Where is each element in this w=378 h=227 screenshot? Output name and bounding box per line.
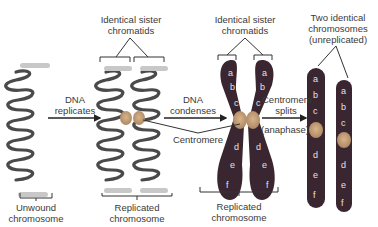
gene-locus-d: d	[256, 142, 261, 153]
gene-locus-c: c	[341, 118, 346, 129]
gene-locus-d: d	[341, 160, 346, 171]
label-dna-condenses: DNAcondenses	[164, 94, 222, 116]
gene-locus-a: a	[341, 86, 346, 97]
gene-locus-e: e	[341, 180, 346, 191]
replicated-dna-coil-left	[96, 71, 123, 180]
centromere-right	[133, 111, 145, 125]
gene-locus-e: e	[262, 160, 267, 171]
gene-locus-b: b	[341, 102, 346, 113]
label-replicated-chromosome-2: Replicatedchromosome	[206, 201, 272, 223]
label-replicated-chromosome-1: Replicatedchromosome	[104, 202, 170, 224]
unwound-top-cap	[20, 63, 50, 68]
label-sister-chromatids-2: Identical sisterchromatids	[212, 14, 278, 36]
gene-locus-f: f	[226, 180, 229, 191]
gene-locus-b: b	[260, 82, 265, 93]
label-sister-chromatids-1: Identical sisterchromatids	[98, 14, 164, 36]
gene-locus-c: c	[313, 106, 318, 117]
label-unwound-chromosome: Unwoundchromosome	[4, 202, 68, 224]
label-centromere: Centromere	[166, 134, 230, 145]
gene-locus-f: f	[266, 180, 269, 191]
gene-locus-a: a	[262, 68, 267, 79]
gene-locus-c: c	[256, 98, 261, 109]
centromere-left	[120, 111, 132, 125]
gene-locus-a: a	[313, 74, 318, 85]
gene-locus-b: b	[230, 82, 235, 93]
gene-locus-c: c	[234, 98, 239, 109]
gene-locus-b: b	[313, 90, 318, 101]
gene-locus-d: d	[234, 142, 239, 153]
gene-locus-e: e	[230, 160, 235, 171]
label-centromere-splits: Centromeresplits	[262, 94, 310, 116]
unwound-bottom-cap	[18, 192, 48, 197]
label-two-identical-chromosomes: Two identicalchromosomes(unreplicated)	[300, 12, 376, 45]
gene-locus-a: a	[228, 68, 233, 79]
gene-locus-d: d	[313, 150, 318, 161]
replicated-dna-coil-right	[132, 71, 159, 180]
unwound-dna-coil	[6, 71, 33, 180]
gene-locus-f: f	[341, 198, 344, 209]
gene-locus-e: e	[313, 170, 318, 181]
label-dna-replicates: DNAreplicates	[50, 94, 100, 116]
gene-locus-f: f	[313, 190, 316, 201]
label-anaphase: (anaphase)	[258, 124, 312, 135]
